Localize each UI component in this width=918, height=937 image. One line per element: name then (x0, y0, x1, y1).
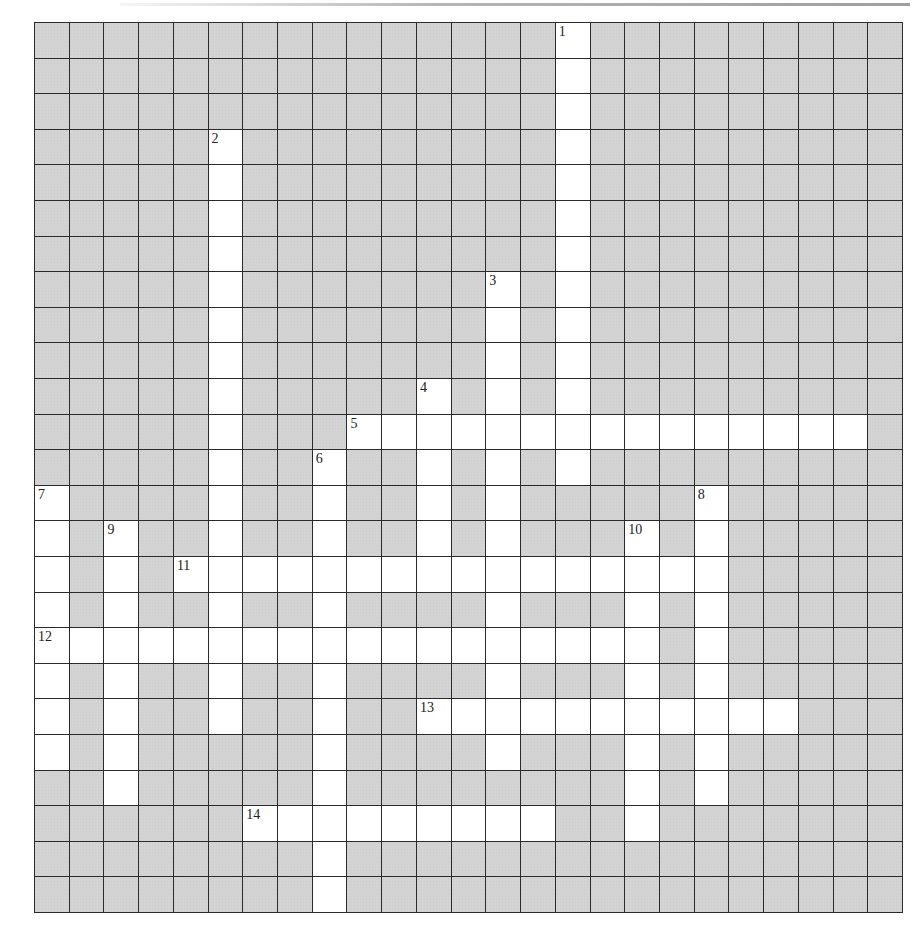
answer-cell[interactable] (209, 699, 243, 734)
answer-cell[interactable] (486, 415, 520, 450)
answer-cell[interactable] (243, 628, 277, 663)
answer-cell[interactable] (417, 806, 451, 841)
answer-cell[interactable] (660, 699, 694, 734)
answer-cell[interactable] (313, 735, 347, 770)
answer-cell[interactable]: 4 (417, 379, 451, 414)
answer-cell[interactable] (799, 415, 833, 450)
answer-cell[interactable] (486, 486, 520, 521)
answer-cell[interactable] (452, 806, 486, 841)
answer-cell[interactable] (660, 557, 694, 592)
answer-cell[interactable] (729, 415, 763, 450)
answer-cell[interactable] (104, 593, 138, 628)
answer-cell[interactable] (278, 806, 312, 841)
answer-cell[interactable] (556, 59, 590, 94)
answer-cell[interactable] (556, 237, 590, 272)
answer-cell[interactable] (764, 699, 798, 734)
answer-cell[interactable] (35, 557, 69, 592)
answer-cell[interactable] (139, 628, 173, 663)
answer-cell[interactable] (695, 628, 729, 663)
answer-cell[interactable] (417, 557, 451, 592)
answer-cell[interactable] (521, 415, 555, 450)
answer-cell[interactable] (486, 628, 520, 663)
answer-cell[interactable] (486, 735, 520, 770)
answer-cell[interactable] (625, 806, 659, 841)
answer-cell[interactable] (313, 486, 347, 521)
answer-cell[interactable] (313, 699, 347, 734)
answer-cell[interactable] (417, 486, 451, 521)
answer-cell[interactable] (313, 593, 347, 628)
answer-cell[interactable] (209, 165, 243, 200)
answer-cell[interactable] (556, 450, 590, 485)
answer-cell[interactable] (35, 521, 69, 556)
answer-cell[interactable] (660, 415, 694, 450)
answer-cell[interactable]: 11 (174, 557, 208, 592)
answer-cell[interactable] (556, 343, 590, 378)
answer-cell[interactable] (35, 593, 69, 628)
answer-cell[interactable] (556, 94, 590, 129)
answer-cell[interactable] (625, 699, 659, 734)
answer-cell[interactable] (209, 379, 243, 414)
answer-cell[interactable] (209, 664, 243, 699)
answer-cell[interactable] (625, 593, 659, 628)
answer-cell[interactable] (35, 664, 69, 699)
answer-cell[interactable] (625, 771, 659, 806)
answer-cell[interactable] (313, 664, 347, 699)
answer-cell[interactable] (591, 699, 625, 734)
answer-cell[interactable] (209, 201, 243, 236)
answer-cell[interactable] (729, 699, 763, 734)
answer-cell[interactable]: 10 (625, 521, 659, 556)
answer-cell[interactable] (764, 415, 798, 450)
answer-cell[interactable] (695, 521, 729, 556)
answer-cell[interactable]: 6 (313, 450, 347, 485)
answer-cell[interactable] (556, 557, 590, 592)
answer-cell[interactable] (521, 806, 555, 841)
answer-cell[interactable] (695, 735, 729, 770)
answer-cell[interactable] (209, 557, 243, 592)
answer-cell[interactable]: 1 (556, 23, 590, 58)
answer-cell[interactable] (347, 557, 381, 592)
answer-cell[interactable] (625, 557, 659, 592)
answer-cell[interactable] (591, 557, 625, 592)
answer-cell[interactable] (174, 628, 208, 663)
answer-cell[interactable] (486, 664, 520, 699)
answer-cell[interactable] (625, 735, 659, 770)
answer-cell[interactable] (104, 699, 138, 734)
answer-cell[interactable] (347, 806, 381, 841)
answer-cell[interactable] (452, 557, 486, 592)
answer-cell[interactable] (313, 806, 347, 841)
answer-cell[interactable] (104, 664, 138, 699)
answer-cell[interactable] (556, 379, 590, 414)
answer-cell[interactable] (209, 237, 243, 272)
answer-cell[interactable] (417, 415, 451, 450)
answer-cell[interactable] (452, 699, 486, 734)
answer-cell[interactable] (486, 557, 520, 592)
answer-cell[interactable] (695, 771, 729, 806)
answer-cell[interactable]: 13 (417, 699, 451, 734)
answer-cell[interactable] (556, 165, 590, 200)
answer-cell[interactable] (209, 343, 243, 378)
answer-cell[interactable] (382, 415, 416, 450)
answer-cell[interactable] (209, 486, 243, 521)
answer-cell[interactable] (417, 450, 451, 485)
answer-cell[interactable] (35, 735, 69, 770)
answer-cell[interactable] (313, 628, 347, 663)
answer-cell[interactable] (70, 628, 104, 663)
answer-cell[interactable]: 3 (486, 272, 520, 307)
answer-cell[interactable] (521, 628, 555, 663)
answer-cell[interactable] (591, 628, 625, 663)
answer-cell[interactable] (104, 735, 138, 770)
answer-cell[interactable] (209, 272, 243, 307)
answer-cell[interactable] (695, 593, 729, 628)
answer-cell[interactable] (209, 308, 243, 343)
answer-cell[interactable] (278, 557, 312, 592)
answer-cell[interactable] (625, 628, 659, 663)
answer-cell[interactable] (486, 593, 520, 628)
answer-cell[interactable] (209, 521, 243, 556)
answer-cell[interactable] (486, 450, 520, 485)
answer-cell[interactable] (313, 771, 347, 806)
answer-cell[interactable] (209, 450, 243, 485)
answer-cell[interactable] (556, 308, 590, 343)
answer-cell[interactable] (452, 415, 486, 450)
answer-cell[interactable] (486, 699, 520, 734)
answer-cell[interactable] (556, 272, 590, 307)
